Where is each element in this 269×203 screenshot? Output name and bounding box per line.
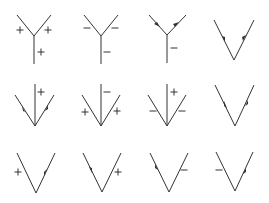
plus-sign — [45, 27, 52, 34]
arrow-icon — [243, 168, 246, 174]
plus-sign — [82, 109, 89, 116]
plus-sign — [114, 108, 121, 115]
vertex-r2c1 — [15, 84, 54, 126]
plus-sign — [171, 89, 178, 96]
arrow-icon — [154, 22, 160, 27]
vertex-diagram-grid — [0, 0, 269, 203]
arrow-icon — [224, 101, 227, 108]
vertex-r3c2 — [83, 153, 122, 192]
arrow-icon — [155, 164, 158, 170]
vertex-r3c3 — [150, 153, 188, 192]
arrow-icon — [89, 167, 92, 173]
vertex-r3c4 — [216, 152, 254, 191]
plus-sign — [115, 169, 122, 176]
vertex-r1c2 — [84, 15, 119, 64]
vertex-r3c1 — [15, 153, 56, 193]
plus-sign — [17, 27, 24, 34]
vertex-r1c4 — [214, 20, 254, 60]
vertex-r1c3 — [149, 15, 186, 63]
vertex-r2c2 — [82, 84, 121, 126]
plus-sign — [38, 49, 45, 56]
vertex-r1c1 — [17, 15, 52, 64]
plus-sign — [38, 89, 45, 96]
plus-sign — [15, 169, 22, 176]
vertex-r2c4 — [215, 85, 254, 126]
vertex-r2c3 — [148, 84, 186, 126]
